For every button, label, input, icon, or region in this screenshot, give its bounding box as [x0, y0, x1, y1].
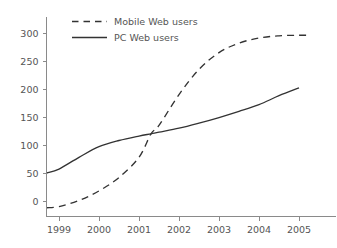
y-tick-label: 300	[20, 28, 38, 39]
legend-label-pc-web-users: PC Web users	[114, 32, 179, 43]
y-tick-label: 100	[20, 140, 38, 151]
x-tick-label: 2000	[87, 224, 111, 235]
legend-label-mobile-web-users: Mobile Web users	[114, 16, 198, 27]
x-tick-label: 2002	[167, 224, 191, 235]
y-axis-ticks: 050100150200250300	[20, 28, 46, 207]
chart-axes	[47, 17, 337, 217]
x-tick-label: 1999	[47, 224, 71, 235]
series-line-mobile-web-users	[47, 35, 311, 208]
y-tick-label: 50	[26, 168, 38, 179]
y-tick-label: 250	[20, 56, 38, 67]
y-tick-label: 150	[20, 112, 38, 123]
x-tick-label: 2005	[287, 224, 311, 235]
y-tick-label: 200	[20, 84, 38, 95]
x-tick-label: 2003	[207, 224, 231, 235]
chart-legend: Mobile Web users PC Web users	[72, 16, 198, 43]
y-tick-label: 0	[32, 196, 38, 207]
x-tick-label: 2004	[247, 224, 271, 235]
x-tick-label: 2001	[127, 224, 151, 235]
chart-series-group	[47, 35, 311, 208]
series-line-pc-web-users	[47, 88, 299, 173]
line-chart: 050100150200250300 199920002001200220032…	[0, 0, 337, 248]
chart-canvas: 050100150200250300 199920002001200220032…	[0, 0, 337, 248]
x-axis-ticks: 1999200020012002200320042005	[47, 217, 311, 235]
